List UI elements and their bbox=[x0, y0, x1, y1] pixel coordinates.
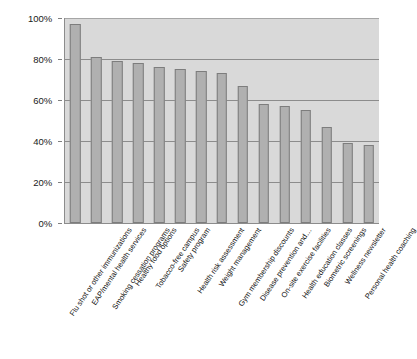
y-axis-tick-label: 100% bbox=[28, 13, 52, 24]
x-label-slot: Safety program bbox=[169, 224, 190, 225]
bar-slot bbox=[65, 18, 86, 223]
y-axis-tick-mark bbox=[58, 141, 62, 142]
y-axis-tick-label: 80% bbox=[33, 54, 52, 65]
bar-slot bbox=[149, 18, 170, 223]
y-axis-tick-label: 20% bbox=[33, 177, 52, 188]
x-label-slot: Tobacco-free campus bbox=[148, 224, 169, 225]
y-axis-tick-mark bbox=[58, 100, 62, 101]
y-axis-tick-mark bbox=[58, 59, 62, 60]
bar bbox=[112, 61, 122, 223]
bar bbox=[238, 86, 248, 223]
bar-slot bbox=[107, 18, 128, 223]
y-axis-tick-label: 0% bbox=[38, 218, 52, 229]
x-label-slot: Wellness newsletter bbox=[336, 224, 357, 225]
bar bbox=[154, 67, 164, 223]
y-axis-tick-label: 60% bbox=[33, 95, 52, 106]
bar-slot bbox=[358, 18, 379, 223]
bar bbox=[363, 145, 373, 223]
bar-slot bbox=[295, 18, 316, 223]
bar-slot bbox=[191, 18, 212, 223]
bar bbox=[259, 104, 269, 223]
x-label-slot: Disease prevention and… bbox=[252, 224, 273, 225]
x-label-slot: Gym membership discounts bbox=[231, 224, 252, 225]
x-label-slot: Smoking cessation programs bbox=[106, 224, 127, 225]
x-label-slot: On-site exercise facilities bbox=[273, 224, 294, 225]
bar bbox=[133, 63, 143, 223]
y-axis-tick-mark bbox=[58, 18, 62, 19]
bar-slot bbox=[86, 18, 107, 223]
y-axis: 0%20%40%60%80%100% bbox=[0, 0, 62, 359]
x-axis-category-label: Flu shot or other immunizations bbox=[68, 226, 134, 318]
bar bbox=[321, 127, 331, 223]
bar-series bbox=[65, 18, 379, 223]
bar bbox=[70, 24, 80, 223]
bar-slot bbox=[274, 18, 295, 223]
y-axis-tick-label: 40% bbox=[33, 136, 52, 147]
y-axis-tick-mark bbox=[58, 223, 62, 224]
bar-slot bbox=[128, 18, 149, 223]
x-label-slot: Health risk assessment bbox=[190, 224, 211, 225]
x-label-slot: Weight management bbox=[211, 224, 232, 225]
x-axis-category-labels: Flu shot or other immunizationsEAP/menta… bbox=[64, 224, 378, 359]
x-label-slot: Personal health coaching bbox=[357, 224, 378, 225]
plot-area bbox=[64, 18, 379, 224]
bar-slot bbox=[253, 18, 274, 223]
bar-slot bbox=[316, 18, 337, 223]
x-label-slot: Flu shot or other immunizations bbox=[64, 224, 85, 225]
bar-slot bbox=[170, 18, 191, 223]
bar bbox=[175, 69, 185, 223]
x-label-slot: EAP/mental health services bbox=[85, 224, 106, 225]
x-axis-category-label: Personal health coaching bbox=[363, 226, 417, 301]
bar-slot bbox=[232, 18, 253, 223]
y-axis-tick-mark bbox=[58, 182, 62, 183]
bar bbox=[280, 106, 290, 223]
bar-slot bbox=[212, 18, 233, 223]
bar-slot bbox=[337, 18, 358, 223]
bar bbox=[91, 57, 101, 223]
bar bbox=[196, 71, 206, 223]
bar bbox=[217, 73, 227, 223]
x-label-slot: Biometric screenings bbox=[315, 224, 336, 225]
bar bbox=[300, 110, 310, 223]
bar bbox=[342, 143, 352, 223]
x-label-slot: Health education classes bbox=[294, 224, 315, 225]
x-label-slot: Healthy food options bbox=[127, 224, 148, 225]
